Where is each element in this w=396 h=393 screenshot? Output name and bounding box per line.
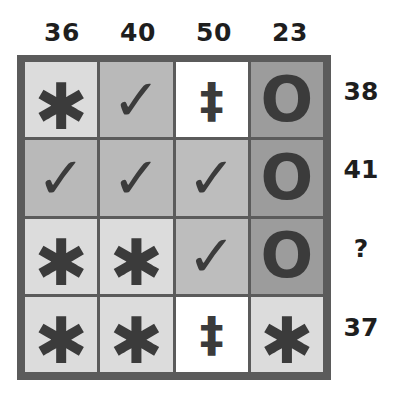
row-sum-3-unknown: ? [336, 234, 386, 263]
circle-o-icon: O [261, 225, 314, 287]
grid-cell-r1-c4: O [251, 62, 323, 137]
grid-cell-r2-c3: ✓ [176, 140, 248, 215]
grid-cell-r4-c4: ✱ [251, 297, 323, 372]
check-icon: ✓ [112, 149, 161, 207]
row-sum-2: 41 [336, 155, 386, 184]
check-icon: ✓ [187, 227, 236, 285]
asterisk-icon: ✱ [34, 75, 88, 138]
double-dagger-icon: ‡ [200, 76, 224, 124]
asterisk-icon: ✱ [260, 309, 314, 372]
circle-o-icon: O [261, 147, 314, 209]
grid-cell-r2-c4: O [251, 140, 323, 215]
row-sum-4: 37 [336, 313, 386, 342]
grid-cell-r2-c1: ✓ [25, 140, 97, 215]
column-sum-1: 36 [25, 18, 99, 47]
grid-cell-r3-c4: O [251, 219, 323, 294]
grid-cell-r3-c2: ✱ [100, 219, 172, 294]
row-sum-1: 38 [336, 77, 386, 106]
grid-cell-r1-c1: ✱ [25, 62, 97, 137]
grid-cell-r4-c2: ✱ [100, 297, 172, 372]
grid-cell-r1-c3: ‡ [176, 62, 248, 137]
circle-o-icon: O [261, 69, 314, 131]
column-sum-3: 50 [177, 18, 251, 47]
check-icon: ✓ [112, 71, 161, 129]
check-icon: ✓ [187, 149, 236, 207]
grid-cell-r4-c3: ‡ [176, 297, 248, 372]
double-dagger-icon: ‡ [200, 310, 224, 358]
grid-cell-r4-c1: ✱ [25, 297, 97, 372]
asterisk-icon: ✱ [110, 231, 164, 294]
asterisk-icon: ✱ [34, 309, 88, 372]
asterisk-icon: ✱ [110, 309, 164, 372]
column-sum-2: 40 [101, 18, 175, 47]
check-icon: ✓ [37, 149, 86, 207]
symbol-grid: ✱✓‡O✓✓✓O✱✱✓O✱✱‡✱ [17, 55, 331, 380]
grid-cell-r3-c1: ✱ [25, 219, 97, 294]
column-sum-4: 23 [253, 18, 327, 47]
grid-cell-r3-c3: ✓ [176, 219, 248, 294]
grid-cell-r2-c2: ✓ [100, 140, 172, 215]
grid-cell-r1-c2: ✓ [100, 62, 172, 137]
asterisk-icon: ✱ [34, 231, 88, 294]
